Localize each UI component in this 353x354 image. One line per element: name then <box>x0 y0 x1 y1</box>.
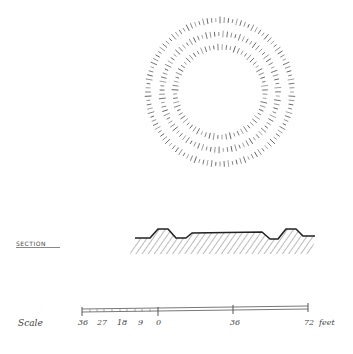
scale-label: Scale <box>18 318 43 328</box>
scale-unit: feet <box>319 318 335 327</box>
scale-tick-27: 27 <box>97 318 107 327</box>
scale-tick-0: 0 <box>156 318 161 327</box>
scale-tick-72: 72 <box>304 318 314 327</box>
scale-bar: 36 27 18 9 0 36 72 feet <box>78 300 338 340</box>
section-label: SECTION <box>16 240 60 248</box>
scale-tick-18: 18 <box>117 318 127 327</box>
scale-tick-36-left: 36 <box>78 318 88 327</box>
plan-view-drawing <box>130 0 310 180</box>
scale-tick-9: 9 <box>138 318 143 327</box>
section-profile-drawing <box>130 218 320 262</box>
scale-tick-36-right: 36 <box>230 318 240 327</box>
